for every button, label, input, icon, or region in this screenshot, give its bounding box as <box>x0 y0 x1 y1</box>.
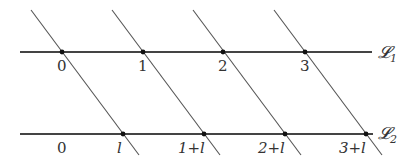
label-line-L1: 𝓛1 <box>378 42 397 65</box>
dot-L2-l <box>121 132 126 137</box>
label-L1-sub: 1 <box>390 52 397 65</box>
label-L1-3: 3 <box>300 57 310 75</box>
dot-L2-1pl <box>202 132 207 137</box>
label-L2-l: l <box>117 139 122 157</box>
parallel-lines-diagram: 0 1 2 3 0 l 1+l 2+l 3+l 𝓛1 𝓛2 <box>0 0 413 167</box>
dot-L1-0 <box>60 50 65 55</box>
label-L2-0: 0 <box>57 139 67 157</box>
dot-L2-3pl <box>364 132 369 137</box>
dot-L1-3 <box>303 50 308 55</box>
label-L2-sub: 2 <box>389 133 397 146</box>
label-L1-1: 1 <box>138 57 148 75</box>
label-L2-1pl: 1+l <box>178 139 205 157</box>
label-line-L2: 𝓛2 <box>378 123 397 146</box>
label-L1-2: 2 <box>218 57 228 75</box>
label-L2-3pl: 3+l <box>339 139 366 157</box>
dot-L2-2pl <box>283 132 288 137</box>
dot-L1-2 <box>221 50 226 55</box>
dot-L1-1 <box>141 50 146 55</box>
label-L2-2pl: 2+l <box>257 139 285 157</box>
label-L1-0: 0 <box>57 57 67 75</box>
